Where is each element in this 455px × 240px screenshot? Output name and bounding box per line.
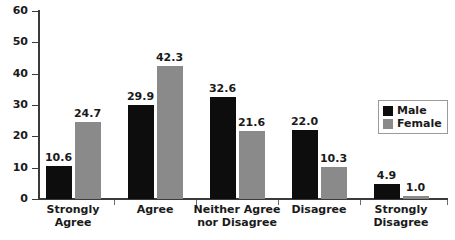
bar-value-label: 24.7 — [68, 107, 108, 120]
bar-female — [403, 196, 429, 199]
legend-swatch-female — [383, 119, 393, 129]
y-axis-line — [38, 10, 40, 200]
y-tick-mark — [32, 136, 38, 137]
bar-male — [210, 97, 236, 199]
bar-value-label: 1.0 — [396, 181, 436, 194]
y-tick-label: 50 — [4, 35, 28, 48]
bar-value-label: 4.9 — [367, 169, 407, 182]
bar-value-label: 10.6 — [39, 151, 79, 164]
bar-value-label: 10.3 — [314, 152, 354, 165]
y-tick-label: 30 — [4, 98, 28, 111]
bar-female — [321, 167, 347, 199]
bar-female — [157, 66, 183, 199]
y-tick-label: 10 — [4, 161, 28, 174]
bar-value-label: 42.3 — [150, 51, 190, 64]
legend-label-male: Male — [397, 105, 427, 116]
bar-female — [239, 131, 265, 199]
y-tick-label: 40 — [4, 67, 28, 80]
y-tick-mark — [32, 168, 38, 169]
bar-female — [75, 122, 101, 199]
bar-value-label: 21.6 — [232, 116, 272, 129]
bar-value-label: 22.0 — [285, 115, 325, 128]
y-tick-mark — [32, 199, 38, 200]
y-tick-label: 20 — [4, 129, 28, 142]
chart-legend: Male Female — [378, 100, 448, 134]
y-tick-mark — [32, 74, 38, 75]
legend-item-male: Male — [383, 104, 442, 117]
y-tick-label: 60 — [4, 4, 28, 17]
bar-male — [128, 105, 154, 199]
bar-chart: 0102030405060 10.624.729.942.332.621.622… — [0, 0, 455, 240]
bar-value-label: 32.6 — [203, 82, 243, 95]
bar-value-label: 29.9 — [121, 90, 161, 103]
legend-label-female: Female — [397, 118, 442, 129]
legend-swatch-male — [383, 106, 393, 116]
y-tick-mark — [32, 105, 38, 106]
legend-item-female: Female — [383, 117, 442, 130]
y-tick-mark — [32, 11, 38, 12]
y-tick-mark — [32, 42, 38, 43]
bar-male — [46, 166, 72, 199]
category-label: Strongly Disagree — [346, 203, 455, 229]
